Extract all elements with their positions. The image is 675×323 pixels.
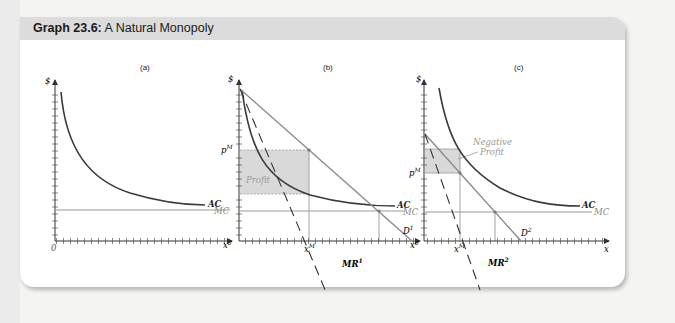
panel-a-y-ticks [52, 95, 58, 235]
panel-c-monopoly-point [458, 171, 461, 174]
panel-b-y-ticks [236, 95, 242, 235]
panel-c-price-label: pM [409, 166, 421, 178]
panel-b-y-axis-label: $ [228, 74, 233, 84]
panel-b-demand-label: D1 [402, 224, 414, 236]
panel-b-x-axis-label: x0 [223, 239, 232, 250]
panel-a-y-axis-label: $ [45, 76, 50, 86]
panel-a-x-ticks [55, 238, 227, 244]
panel-b: (b) Profit $ x0 pM xM AC MC D1 MR1 [221, 63, 420, 292]
panel-c-y-ticks [421, 95, 427, 235]
panel-c-mr-label: MR2 [487, 256, 509, 268]
panel-b-price-label: pM [221, 143, 233, 155]
panel-a-mc-label: MC [213, 206, 230, 216]
panel-c-efficient-point [493, 210, 496, 213]
panel-c-mc-label: MC [593, 207, 610, 217]
panel-a-label: (a) [140, 63, 150, 72]
panel-b-profit-area [240, 150, 309, 194]
panel-a: (a) $ 0 AC MC [45, 63, 232, 253]
panel-c-x-axis-label: x [604, 244, 609, 254]
panel-c: (c) Negative Profit $ x0 pM xM x AC MC D… [409, 63, 610, 290]
panel-b-profit-label: Profit [245, 175, 271, 185]
panel-b-x-ticks [239, 238, 414, 244]
panel-b-mc-label: MC [402, 207, 419, 217]
panel-b-efficient-point [377, 209, 380, 212]
panel-a-origin: 0 [51, 243, 57, 253]
panel-b-mr-label: MR1 [341, 257, 363, 269]
panel-c-origin-label: x0 [410, 239, 419, 250]
panel-c-x-ticks [424, 238, 604, 244]
panel-a-ac-curve [61, 92, 205, 205]
panel-c-label: (c) [514, 63, 524, 72]
panel-b-monopoly-point [307, 148, 310, 151]
graph-canvas: (a) $ 0 AC MC (b) Profit $ x0 pM xM [0, 0, 675, 323]
panel-c-demand-label: D2 [520, 226, 532, 238]
panel-c-loss-label-2: Profit [479, 147, 505, 157]
panel-c-demand-line [425, 134, 521, 241]
panel-c-loss-label-1: Negative [472, 137, 512, 147]
panel-c-y-axis-label: $ [416, 74, 421, 84]
panel-b-label: (b) [323, 63, 333, 72]
